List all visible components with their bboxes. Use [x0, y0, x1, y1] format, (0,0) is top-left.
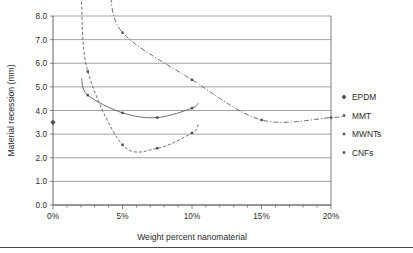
- series-line-mwnts: [82, 2, 199, 152]
- y-axis-tick-label: 8.0: [36, 12, 48, 21]
- y-axis-tick-label: 0.0: [36, 201, 48, 210]
- diamond-marker-icon: [342, 95, 347, 100]
- data-point-marker-mwnts-1: [121, 144, 123, 146]
- x-axis-tick-label: 10%: [184, 212, 200, 221]
- y-axis-tick-label: 5.0: [36, 83, 48, 92]
- y-axis-tick-label: 6.0: [36, 59, 48, 68]
- y-axis-title: Material recession (mm): [6, 64, 16, 156]
- y-axis-tick-label: 4.0: [36, 107, 48, 116]
- square-marker-icon: [343, 133, 345, 135]
- data-point-marker-mwnts-2: [156, 147, 158, 149]
- x-axis-tick-label: 0%: [47, 212, 59, 221]
- legend-label-mwnts: MWNTs: [352, 129, 381, 139]
- y-axis-tick-label: 7.0: [36, 36, 48, 45]
- data-point-marker-mwnts-3: [191, 132, 193, 134]
- material-recession-line-chart: 0.01.02.03.04.05.06.07.08.00%5%10%15%20%…: [0, 0, 413, 253]
- data-point-marker-epdm-0: [50, 120, 55, 125]
- x-axis-tick-label: 5%: [117, 212, 129, 221]
- chart-figure: 0.01.02.03.04.05.06.07.08.00%5%10%15%20%…: [0, 0, 413, 253]
- square-marker-icon: [343, 114, 345, 116]
- x-axis-tick-label: 15%: [253, 212, 269, 221]
- x-axis-tick-label: 20%: [323, 212, 339, 221]
- data-point-marker-mmt-1: [121, 112, 123, 114]
- data-point-marker-mmt-3: [191, 107, 193, 109]
- data-point-marker-cnfs-1: [191, 79, 193, 81]
- legend-label-mmt: MMT: [352, 111, 371, 121]
- data-point-marker-mmt-2: [156, 116, 158, 118]
- x-axis-title: Weight percent nanomaterial: [137, 232, 247, 242]
- data-point-marker-mmt-0: [87, 94, 89, 96]
- square-marker-icon: [343, 151, 345, 153]
- data-point-marker-mwnts-0: [87, 70, 89, 72]
- data-point-marker-cnfs-0: [121, 31, 123, 33]
- series-line-mmt: [82, 78, 199, 117]
- series-line-cnfs: [110, 0, 344, 122]
- legend-label-epdm: EPDM: [352, 92, 376, 102]
- legend-label-cnfs: CNFs: [352, 148, 373, 158]
- data-point-marker-cnfs-2: [260, 119, 262, 121]
- y-axis-tick-label: 3.0: [36, 130, 48, 139]
- y-axis-tick-label: 2.0: [36, 154, 48, 163]
- data-point-marker-cnfs-3: [330, 116, 332, 118]
- y-axis-tick-label: 1.0: [36, 177, 48, 186]
